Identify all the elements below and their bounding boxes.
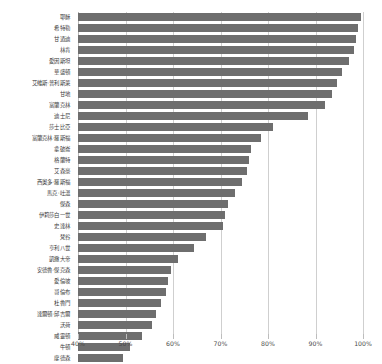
bar: [78, 233, 206, 241]
bar: [78, 266, 171, 274]
category-label: 愛因斯坦: [49, 56, 70, 67]
bar: [78, 167, 247, 175]
category-label: 迪士尼: [54, 111, 70, 122]
bar-row: [78, 67, 363, 78]
bar: [78, 211, 225, 219]
bar: [78, 46, 354, 54]
bar: [78, 156, 249, 164]
bar-row: [78, 100, 363, 111]
bar: [78, 277, 168, 285]
bar: [78, 200, 228, 208]
bar: [78, 222, 223, 230]
bar: [78, 189, 235, 197]
category-label: 甘迺迪: [54, 34, 70, 45]
x-tick-label: 60%: [166, 340, 180, 347]
bar: [78, 24, 358, 32]
bar-row: [78, 287, 363, 298]
category-label: 愛倫坡: [54, 276, 70, 287]
bar: [78, 35, 356, 43]
bar: [78, 255, 178, 263]
x-tick: [221, 334, 222, 339]
category-label: 摩德森: [54, 353, 70, 364]
bar-row: [78, 23, 363, 34]
x-tick-label: 70%: [214, 340, 228, 347]
category-label: 艾森豪: [54, 166, 70, 177]
category-label: 沃荷: [60, 320, 70, 331]
x-tick-label: 40%: [71, 340, 85, 347]
bar-row: [78, 276, 363, 287]
bar: [78, 288, 166, 296]
bar-row: [78, 221, 363, 232]
category-label: 傑森: [60, 199, 70, 210]
x-tick: [268, 334, 269, 339]
bar: [78, 134, 261, 142]
category-label: 凱撒大帝: [49, 254, 70, 265]
bar-row: [78, 166, 363, 177]
bar-row: [78, 78, 363, 89]
bar-row: [78, 320, 363, 331]
bar-row: [78, 199, 363, 210]
bar-row: [78, 155, 363, 166]
category-label: 達爾頓‧邱吉爾: [37, 309, 70, 320]
bar: [78, 90, 332, 98]
category-label: 伊莉莎白一世: [39, 210, 70, 221]
category-label: 希特勒: [54, 23, 70, 34]
bar-row: [78, 210, 363, 221]
bar-row: [78, 232, 363, 243]
category-label: 富蘭克林‧羅斯福: [32, 133, 70, 144]
bar-row: [78, 56, 363, 67]
bar-row: [78, 111, 363, 122]
bar-row: [78, 188, 363, 199]
bar-row: [78, 144, 363, 155]
bar: [78, 354, 123, 362]
bar: [78, 123, 273, 131]
bar-row: [78, 353, 363, 364]
category-label: 西奧多‧羅斯福: [37, 177, 70, 188]
bar: [78, 101, 325, 109]
x-tick-label: 50%: [119, 340, 133, 347]
x-tick: [363, 334, 364, 339]
category-label: 史達林: [54, 221, 70, 232]
x-tick-label: 100%: [354, 340, 372, 347]
bar-row: [78, 298, 363, 309]
category-label: 梵谷: [60, 232, 70, 243]
bar: [78, 112, 308, 120]
category-label: 莎士比亞: [49, 122, 70, 133]
bar: [78, 178, 242, 186]
category-label: 富蘭克林: [49, 100, 70, 111]
category-axis-labels: 耶穌希特勒甘迺迪林肯愛因斯坦華盛頓艾維斯‧普利斯萊甘地富蘭克林迪士尼莎士比亞富蘭…: [0, 12, 74, 334]
x-tick: [78, 334, 79, 339]
bar-row: [78, 34, 363, 45]
x-tick-label: 90%: [309, 340, 323, 347]
category-label: 耶穌: [60, 12, 70, 23]
category-label: 亨利八世: [49, 243, 70, 254]
x-tick: [173, 334, 174, 339]
category-label: 哥倫布: [54, 287, 70, 298]
x-tick: [316, 334, 317, 339]
bar: [78, 244, 194, 252]
category-label: 安德魯‧傑克森: [37, 265, 70, 276]
bar: [78, 13, 361, 21]
x-axis: 40%50%60%70%80%90%100%: [78, 334, 363, 354]
bar: [78, 145, 251, 153]
x-tick: [126, 334, 127, 339]
bar-row: [78, 309, 363, 320]
bar: [78, 57, 349, 65]
bar-row: [78, 133, 363, 144]
category-label: 拿破崙: [54, 144, 70, 155]
category-label: 杜魯門: [54, 298, 70, 309]
gridline-100: [363, 12, 364, 334]
bar-row: [78, 89, 363, 100]
bar-row: [78, 265, 363, 276]
bar-row: [78, 243, 363, 254]
plot-area: [78, 12, 363, 334]
bar-row: [78, 122, 363, 133]
bar: [78, 299, 161, 307]
category-label: 馬克‧吐溫: [47, 188, 70, 199]
category-label: 艾維斯‧普利斯萊: [32, 78, 70, 89]
bar-row: [78, 12, 363, 23]
category-label: 華盛頓: [54, 67, 70, 78]
category-label: 牛頓: [60, 342, 70, 353]
x-tick-label: 80%: [261, 340, 275, 347]
